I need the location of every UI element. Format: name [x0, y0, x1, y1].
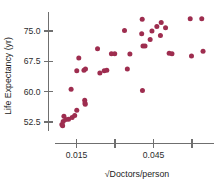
scatter-chart: 52.560.067.575.0 0.0150.045 √Doctors/per… [0, 0, 218, 184]
data-point [140, 17, 145, 22]
x-axis: 0.0150.045 [55, 139, 215, 160]
y-tick-labels: 52.560.067.575.0 [24, 26, 41, 127]
data-point [163, 25, 168, 30]
data-point [72, 113, 77, 118]
data-point [143, 43, 148, 48]
data-point [83, 67, 88, 72]
data-point [76, 56, 81, 61]
data-point [122, 28, 127, 33]
data-point [97, 71, 102, 76]
y-tick-label-2: 67.5 [24, 56, 41, 66]
data-point [158, 33, 163, 38]
data-point [149, 29, 154, 34]
data-point [127, 52, 132, 57]
y-axis-title: Life Expectancy (yr) [3, 37, 13, 115]
data-point [95, 46, 100, 51]
data-point [69, 87, 74, 92]
x-axis-title: √Doctors/person [105, 169, 170, 179]
data-point [169, 51, 174, 56]
y-axis: 52.560.067.575.0 [24, 12, 53, 131]
y-tick-label-1: 60.0 [24, 87, 41, 97]
data-points [59, 16, 205, 128]
data-point [201, 49, 206, 54]
data-point [112, 51, 117, 56]
data-point [125, 67, 130, 72]
y-tick-label-0: 52.5 [24, 117, 41, 127]
data-point [74, 108, 79, 113]
data-point [159, 20, 164, 25]
data-point [148, 37, 153, 42]
data-point [199, 16, 204, 21]
data-point [189, 54, 194, 59]
data-point [74, 68, 79, 73]
x-tick-label-0: 0.015 [66, 150, 88, 160]
data-point [139, 31, 144, 36]
x-tick-labels: 0.0150.045 [66, 150, 165, 160]
data-point [83, 102, 88, 107]
x-tick-label-2: 0.045 [143, 150, 165, 160]
plot-area: 52.560.067.575.0 0.0150.045 √Doctors/per… [0, 0, 218, 184]
data-point [104, 68, 109, 73]
y-tick-label-3: 75.0 [24, 26, 41, 36]
data-point [140, 88, 145, 93]
data-point [188, 16, 193, 21]
data-point [154, 24, 159, 29]
